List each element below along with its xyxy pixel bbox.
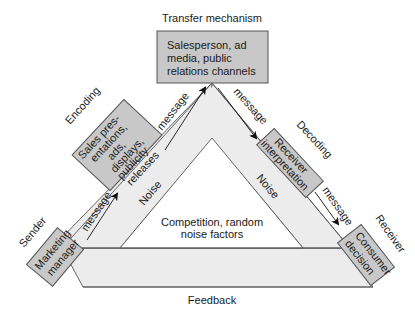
transfer-box-line-1: Salesperson, ad	[167, 39, 247, 51]
center-label-line-2: noise factors	[181, 228, 244, 240]
communication-process-diagram: Transfer mechanism Salesperson, ad media…	[0, 0, 415, 315]
transfer-box-line-2: media, public	[167, 52, 232, 64]
transfer-box-line-3: relations channels	[167, 65, 256, 77]
decoding-role-label: Decoding	[295, 118, 335, 160]
feedback-band	[62, 248, 373, 287]
transfer-role-label: Transfer mechanism	[162, 12, 262, 24]
feedback-label: Feedback	[188, 294, 237, 306]
center-label-line-1: Competition, random	[161, 216, 263, 228]
encoding-role-label: Encoding	[63, 84, 103, 126]
